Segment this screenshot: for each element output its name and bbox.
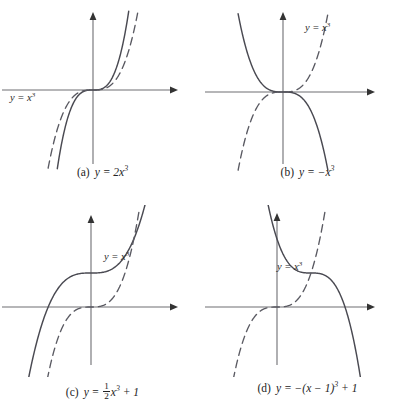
caption-c: (c)y = 12x3 + 1 — [0, 382, 205, 402]
curve-c-transformed — [8, 205, 151, 377]
y-axis-arrowhead — [280, 12, 287, 20]
caption-a-label: (a) — [77, 166, 90, 178]
x-axis-arrowhead — [367, 89, 375, 96]
x-axis-arrowhead — [367, 304, 375, 311]
plot-area-d — [205, 205, 410, 377]
curve-label-d: y = x3 — [277, 261, 302, 272]
caption-d-label: (d) — [258, 382, 271, 394]
caption-a: (a)y = 2x3 — [0, 166, 205, 178]
caption-c-equation: y = 12x3 + 1 — [84, 386, 140, 398]
x-axis-arrowhead — [170, 87, 178, 94]
y-axis-arrowhead — [88, 215, 95, 223]
caption-d: (d)y = −(x − 1)3 + 1 — [205, 382, 410, 394]
cubic-transformations-figure: y = x3 (a)y = 2x3 y = x3 (b)y = −x3 y = … — [0, 0, 410, 420]
plot-svg-d — [205, 205, 410, 377]
plot-svg-a — [0, 0, 205, 172]
caption-b-equation: y = −x3 — [299, 166, 334, 178]
y-axis-arrowhead — [90, 12, 97, 20]
caption-b: (b)y = −x3 — [205, 166, 410, 178]
panel-a: y = x3 (a)y = 2x3 — [0, 0, 205, 210]
x-axis-arrowhead — [170, 304, 178, 311]
curve-d-transformed — [265, 205, 374, 377]
y-axis-arrowhead — [274, 213, 281, 221]
plot-svg-c — [0, 205, 205, 377]
curve-label-b: y = x3 — [305, 22, 330, 33]
caption-b-label: (b) — [281, 166, 294, 178]
curve-label-c: y = x3 — [104, 251, 129, 262]
panel-c: y = x3 (c)y = 12x3 + 1 — [0, 205, 205, 415]
curve-label-a: y = x3 — [10, 92, 35, 103]
caption-d-equation: y = −(x − 1)3 + 1 — [276, 382, 358, 394]
caption-c-label: (c) — [66, 386, 79, 398]
panel-d: y = x3 (d)y = −(x − 1)3 + 1 — [205, 205, 410, 415]
plot-area-a — [0, 0, 205, 172]
caption-a-equation: y = 2x3 — [95, 166, 128, 178]
panel-b: y = x3 (b)y = −x3 — [205, 0, 410, 210]
plot-area-c — [0, 205, 205, 377]
